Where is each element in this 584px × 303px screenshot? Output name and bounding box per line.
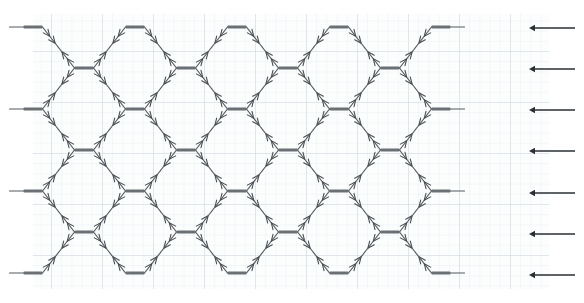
crossing-node [24, 189, 43, 192]
crossing-node [75, 66, 94, 69]
crossing-node [381, 148, 400, 151]
crossing-node [126, 271, 145, 274]
crossing-node [228, 25, 247, 28]
crossing-node [177, 66, 196, 69]
crossing-node [75, 148, 94, 151]
crossing-node [279, 230, 298, 233]
crossing-node [75, 230, 94, 233]
crossing-node [177, 148, 196, 151]
crossing-node [279, 66, 298, 69]
crossing-node [228, 107, 247, 110]
crossing-node [432, 189, 451, 192]
crossing-node [381, 66, 400, 69]
crossing-node [381, 230, 400, 233]
crossing-node [432, 107, 451, 110]
crossing-node [330, 189, 349, 192]
crossing-node [330, 25, 349, 28]
lattice-diagram-svg [0, 0, 584, 303]
crossing-node [330, 107, 349, 110]
crossing-node [228, 189, 247, 192]
crossing-node [330, 271, 349, 274]
crossing-node [126, 189, 145, 192]
crossing-node [24, 107, 43, 110]
crossing-node [279, 148, 298, 151]
crossing-node [432, 25, 451, 28]
crossing-node [24, 25, 43, 28]
crossing-node [126, 25, 145, 28]
crossing-node [126, 107, 145, 110]
crossing-node [228, 271, 247, 274]
crossing-node [432, 271, 451, 274]
crossing-node [177, 230, 196, 233]
diagram-canvas [0, 0, 584, 303]
crossing-node [24, 271, 43, 274]
